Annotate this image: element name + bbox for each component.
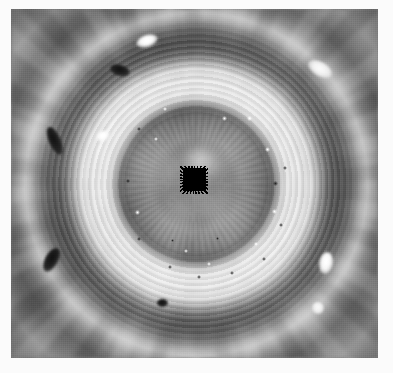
page-root <box>0 0 393 373</box>
polar-vortex-image <box>11 9 378 358</box>
central-data-dropout-mask <box>183 168 206 191</box>
